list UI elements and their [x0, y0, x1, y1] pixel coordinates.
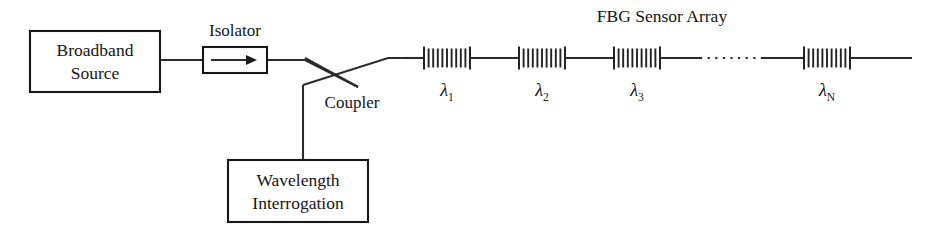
fbg-n-wavelength-label: λN — [818, 80, 836, 103]
wavelength-interrogation-label-line2: Interrogation — [252, 193, 344, 213]
fbg-3 — [614, 47, 660, 70]
fbg-1 — [424, 47, 470, 70]
fbg-2 — [519, 47, 565, 70]
fbg-sensor-array-group: λ1λ2λ3λN — [402, 47, 912, 104]
broadband-source-label-line2: Source — [71, 63, 120, 83]
broadband-source-block: Broadband Source — [30, 31, 160, 92]
wavelength-interrogation-block: Wavelength Interrogation — [228, 160, 368, 222]
coupler-label: Coupler — [325, 93, 380, 112]
coupler-lower-arm — [303, 58, 402, 85]
fbg-sensor-array-diagram: FBG Sensor Array Broadband Source Isolat… — [0, 0, 929, 240]
broadband-source-label-line1: Broadband — [57, 40, 134, 60]
coupler-block: Coupler — [303, 58, 402, 160]
fbg-n — [804, 47, 850, 70]
diagram-title: FBG Sensor Array — [597, 6, 728, 26]
isolator-label: Isolator — [209, 21, 261, 40]
diagram-canvas: FBG Sensor Array Broadband Source Isolat… — [0, 0, 929, 240]
wavelength-interrogation-label-line1: Wavelength — [256, 170, 339, 190]
fbg-2-wavelength-label: λ2 — [534, 80, 549, 103]
fbg-3-wavelength-label: λ3 — [629, 80, 644, 103]
fbg-1-wavelength-label: λ1 — [439, 80, 454, 103]
isolator-block: Isolator — [203, 21, 267, 73]
